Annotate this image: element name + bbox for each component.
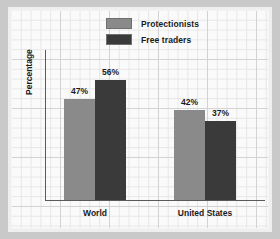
bar-fill <box>205 121 236 200</box>
bar-chart-figure: Protectionists Free traders Percentage 4… <box>0 0 280 239</box>
bar-value-label: 37% <box>212 108 229 118</box>
bar-fill <box>174 110 205 200</box>
category-label: World <box>83 208 107 218</box>
bar: 37% <box>205 121 236 200</box>
bar: 47% <box>64 99 95 200</box>
bar-fill <box>95 80 126 200</box>
bar-value-label: 56% <box>102 67 119 77</box>
legend-swatch-icon <box>106 34 132 45</box>
bar: 42% <box>174 110 205 200</box>
x-axis-category-labels: WorldUnited States <box>45 208 265 222</box>
plot-area: 47%56%42%37% <box>45 50 265 201</box>
legend-label: Protectionists <box>141 19 199 29</box>
legend-item-free-traders: Free traders <box>106 33 236 46</box>
y-axis-title: Percentage <box>24 49 34 95</box>
bar: 56% <box>95 80 126 200</box>
legend-swatch-icon <box>106 18 132 29</box>
bars-layer: 47%56%42%37% <box>46 50 265 200</box>
legend-label: Free traders <box>141 35 191 45</box>
x-axis-line <box>45 200 265 201</box>
bar-value-label: 47% <box>71 86 88 96</box>
category-label: United States <box>178 208 232 218</box>
chart-legend: Protectionists Free traders <box>106 17 236 49</box>
legend-item-protectionists: Protectionists <box>106 17 236 30</box>
bar-fill <box>64 99 95 200</box>
bar-value-label: 42% <box>181 97 198 107</box>
